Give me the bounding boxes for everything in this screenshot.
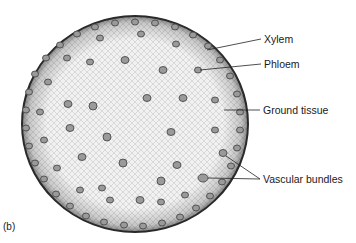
diagram-stage: Xylem Phloem Ground tissue Vascular bund… — [0, 0, 356, 243]
label-ground-tissue: Ground tissue — [263, 105, 328, 116]
stem-cross-section-svg — [0, 0, 356, 243]
panel-letter: (b) — [3, 221, 15, 232]
label-phloem: Phloem — [264, 59, 300, 70]
xylem-leader — [207, 39, 261, 50]
label-vascular-bundles: Vascular bundles — [263, 174, 343, 185]
label-xylem: Xylem — [264, 34, 293, 45]
